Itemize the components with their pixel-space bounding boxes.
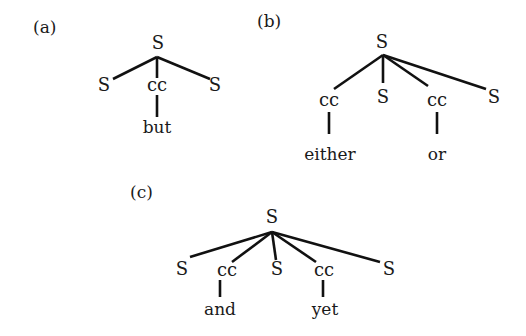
panel-label-a: (a): [33, 17, 56, 37]
child-node-c-3: cc: [314, 259, 334, 280]
leaf-word-b-2: or: [428, 144, 447, 164]
child-node-b-1: S: [377, 86, 389, 107]
leaf-word-a: but: [143, 117, 172, 137]
edge-c-2: [272, 232, 276, 260]
edge-c-1: [232, 232, 272, 262]
child-node-c-1: cc: [217, 259, 237, 280]
edge-b-2: [383, 55, 428, 86]
child-node-a-1: cc: [147, 74, 167, 95]
child-node-a-2: S: [209, 74, 221, 95]
leaf-word-b-0: either: [304, 144, 356, 164]
leaf-word-c-3: yet: [311, 299, 339, 319]
syntax-tree-figure: (a) S S cc S but (b) S cc S cc S either …: [0, 0, 526, 336]
edge-b-0: [334, 55, 383, 89]
root-node-a: S: [152, 32, 164, 53]
tree-b: (b) S cc S cc S either or: [257, 11, 500, 164]
root-node-b: S: [376, 31, 388, 52]
child-node-b-0: cc: [319, 89, 339, 110]
root-node-c: S: [266, 206, 278, 227]
child-node-c-2: S: [271, 258, 283, 279]
child-node-b-3: S: [488, 86, 500, 107]
child-node-c-0: S: [176, 258, 188, 279]
child-node-b-2: cc: [427, 89, 447, 110]
leaf-word-c-1: and: [204, 299, 236, 319]
edge-c-0: [190, 232, 272, 257]
child-node-a-0: S: [98, 74, 110, 95]
edge-c-4: [272, 232, 380, 262]
tree-a: (a) S S cc S but: [33, 17, 221, 137]
tree-c: (c) S S cc S cc S and yet: [130, 182, 395, 319]
panel-label-c: (c): [130, 182, 153, 202]
panel-label-b: (b): [257, 11, 281, 31]
child-node-c-4: S: [383, 258, 395, 279]
edge-b-3: [383, 55, 486, 89]
